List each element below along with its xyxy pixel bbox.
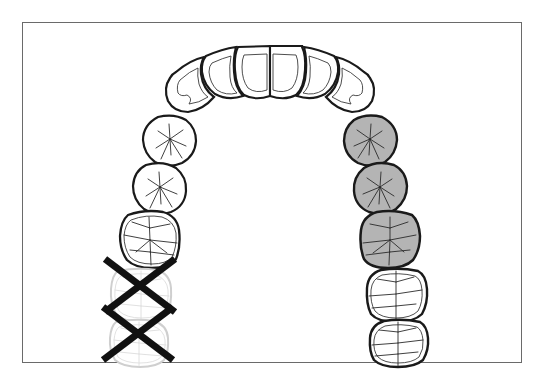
tooth-L-first-premolar[interactable]	[143, 116, 196, 166]
tooth-R-third-molar[interactable]	[370, 320, 428, 367]
tooth-L-central-incisor[interactable]	[235, 46, 270, 98]
tooth-R-first-molar[interactable]	[360, 211, 420, 268]
dental-arch-drawing	[0, 0, 540, 383]
tooth-R-first-premolar[interactable]	[344, 116, 397, 166]
tooth-R-central-incisor[interactable]	[270, 46, 305, 98]
tooth-R-second-premolar[interactable]	[354, 163, 407, 214]
dental-chart-figure	[0, 0, 540, 383]
tooth-R-second-molar[interactable]	[367, 269, 427, 322]
tooth-L-second-premolar[interactable]	[133, 163, 186, 214]
